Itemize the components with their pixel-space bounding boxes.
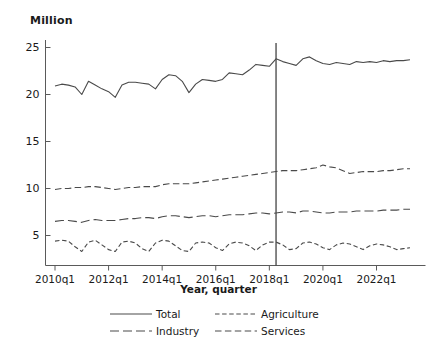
chart-legend: TotalAgricultureIndustryServices [110, 305, 360, 339]
series-line-agriculture [55, 240, 410, 251]
x-axis-title: Year, quarter [0, 283, 437, 295]
legend-label-services: Services [261, 325, 305, 337]
series-line-services [55, 165, 410, 189]
legend-entry-agriculture[interactable]: Agriculture [215, 305, 330, 322]
series-line-total [55, 57, 410, 97]
legend-entry-services[interactable]: Services [215, 322, 330, 339]
y-axis-tick-label: 10 [14, 182, 40, 195]
legend-swatch-agriculture-icon [215, 310, 257, 318]
legend-label-agriculture: Agriculture [261, 308, 319, 320]
chart-figure: Million 510152025 2010q12012q12014q12016… [0, 0, 437, 358]
legend-swatch-industry-icon [110, 327, 152, 335]
legend-label-total: Total [156, 308, 181, 320]
legend-entry-total[interactable]: Total [110, 305, 215, 322]
y-axis-tick-label: 25 [14, 41, 40, 54]
y-axis-tick-label: 15 [14, 135, 40, 148]
legend-entry-industry[interactable]: Industry [110, 322, 215, 339]
y-axis-tick-label: 5 [14, 229, 40, 242]
legend-swatch-services-icon [215, 327, 257, 335]
legend-label-industry: Industry [156, 325, 199, 337]
series-line-industry [55, 209, 410, 222]
y-axis-tick-label: 20 [14, 88, 40, 101]
legend-swatch-total-icon [110, 310, 152, 318]
